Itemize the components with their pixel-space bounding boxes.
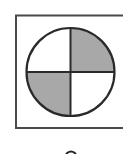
figure-label — [64, 148, 78, 154]
quadrant-circle-figure — [0, 0, 123, 154]
